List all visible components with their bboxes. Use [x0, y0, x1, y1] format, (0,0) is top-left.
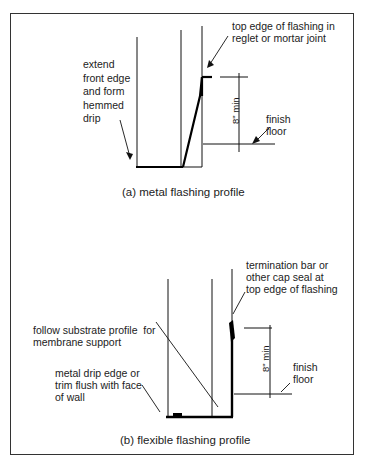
caption-b: (b) flexible flashing profile	[120, 434, 250, 446]
label-drip-edge: metal drip edge or trim flush with face …	[55, 367, 142, 403]
label-finish-floor-a: finish floor	[266, 113, 291, 137]
dimension-b: 8" min	[260, 345, 271, 372]
label-top-edge: top edge of flashing in reglet or mortar…	[232, 20, 335, 44]
label-front-edge: extend front edge and form hemmed drip	[83, 58, 130, 126]
label-finish-floor-b: finish floor	[293, 361, 318, 385]
caption-a: (a) metal flashing profile	[122, 186, 245, 198]
label-termination: termination bar or other cap seal at top…	[246, 259, 338, 295]
label-substrate: follow substrate profile for membrane su…	[33, 324, 156, 348]
dimension-a: 8" min	[230, 97, 241, 124]
